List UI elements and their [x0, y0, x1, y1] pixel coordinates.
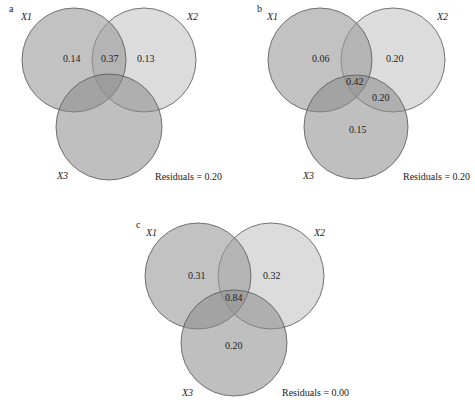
venn-figure: a X1 X2 X3 0.14 0.37 0.13 Residuals = 0.…: [0, 0, 475, 407]
panel-b: b X1 X2 X3 0.06 0.20 0.42 0.20 0.15 Resi…: [257, 3, 470, 182]
set-label-x2: X2: [436, 11, 448, 22]
region-x1-x2-x3: 0.84: [225, 292, 243, 303]
region-x1-only: 0.06: [312, 53, 330, 64]
residuals-label: Residuals = 0.00: [282, 387, 349, 398]
set-label-x3: X3: [302, 170, 314, 181]
region-x1-only: 0.14: [63, 53, 81, 64]
set-label-x1: X1: [20, 11, 32, 22]
region-x2-only: 0.20: [386, 53, 404, 64]
set-label-x3: X3: [56, 170, 68, 181]
set-label-x1: X1: [266, 11, 278, 22]
circle-x3: [56, 74, 162, 180]
region-x1-x2-x3: 0.42: [346, 76, 364, 87]
residuals-label: Residuals = 0.20: [155, 171, 222, 182]
panel-a: a X1 X2 X3 0.14 0.37 0.13 Residuals = 0.…: [9, 3, 222, 182]
region-x1-x2: 0.37: [101, 53, 119, 64]
region-x2-only: 0.13: [137, 53, 155, 64]
panel-c: c X1 X2 X3 0.31 0.32 0.84 0.20 Residuals…: [136, 219, 349, 398]
panel-tag: b: [257, 3, 262, 14]
region-x2-only: 0.32: [263, 270, 281, 281]
set-label-x2: X2: [313, 227, 325, 238]
region-x3-only: 0.20: [225, 340, 243, 351]
region-x2-x3: 0.20: [372, 92, 390, 103]
residuals-label: Residuals = 0.20: [403, 171, 470, 182]
region-x1-only: 0.31: [188, 270, 206, 281]
panel-tag: c: [136, 219, 141, 230]
region-x3-only: 0.15: [349, 124, 367, 135]
set-label-x1: X1: [145, 227, 157, 238]
panel-tag: a: [9, 3, 14, 14]
set-label-x3: X3: [181, 387, 193, 398]
set-label-x2: X2: [186, 11, 198, 22]
